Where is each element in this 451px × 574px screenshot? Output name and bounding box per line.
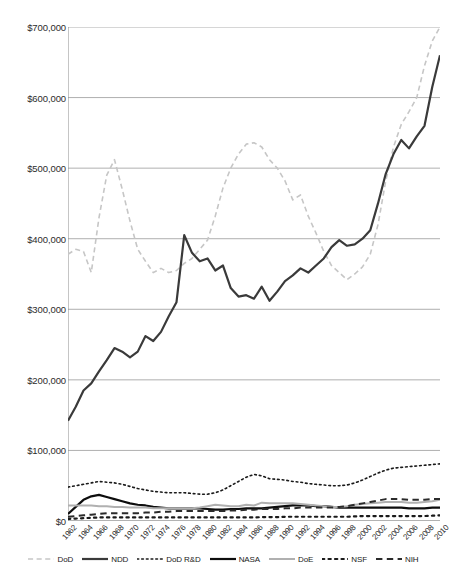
- legend-item-dod[interactable]: DoD: [28, 555, 73, 564]
- legend-label: DoE: [298, 555, 313, 564]
- x-axis-tick-label: 1968: [107, 523, 125, 542]
- legend-label: NIH: [405, 555, 418, 564]
- legend-label: NSF: [351, 555, 367, 564]
- legend-label: DoD R&D: [166, 555, 200, 564]
- x-axis-tick-label: 1970: [122, 523, 140, 542]
- x-axis-tick-label: 2002: [370, 523, 388, 542]
- x-axis-tick-label: 1984: [231, 523, 249, 542]
- y-axis-tick-label: $300,000: [4, 304, 66, 315]
- x-axis-tick-label: 1986: [246, 523, 264, 542]
- x-axis-tick-label: 1972: [138, 523, 156, 542]
- legend-item-doe[interactable]: DoE: [269, 555, 313, 564]
- series-group: [68, 27, 440, 519]
- x-axis-tick-label: 1974: [153, 523, 171, 542]
- legend-swatch-ndd: [82, 555, 108, 563]
- legend-swatch-dod-r-d: [137, 555, 163, 563]
- x-axis-tick-label: 2004: [386, 523, 404, 542]
- legend-swatch-nsf: [322, 555, 348, 563]
- x-axis-tick-label: 1964: [76, 523, 94, 542]
- x-axis-tick-label: 1994: [308, 523, 326, 542]
- y-axis-labels: $0$100,000$200,000$300,000$400,000$500,0…: [0, 27, 66, 521]
- x-axis-tick-label: 1976: [169, 523, 187, 542]
- x-axis-tick-label: 1996: [324, 523, 342, 542]
- series-line-dod-r-d: [68, 464, 440, 494]
- gridlines: [68, 27, 440, 521]
- x-axis-tick-label: 2006: [401, 523, 419, 542]
- chart-legend: DoDNDDDoD R&DNASADoENSFNIH: [0, 551, 447, 567]
- legend-swatch-dod: [28, 555, 54, 563]
- x-axis-tick-label: 1978: [184, 523, 202, 542]
- legend-swatch-doe: [269, 555, 295, 563]
- x-axis-tick-label: 1982: [215, 523, 233, 542]
- y-axis-tick-label: $100,000: [4, 445, 66, 456]
- x-axis-tick-label: 2000: [355, 523, 373, 542]
- plot-svg: [68, 27, 440, 521]
- series-line-ndd: [68, 55, 440, 421]
- y-axis-tick-label: $500,000: [4, 163, 66, 174]
- legend-item-nih[interactable]: NIH: [376, 555, 418, 564]
- legend-label: DoD: [57, 555, 73, 564]
- y-axis-tick-label: $0: [4, 516, 66, 527]
- y-axis-tick-label: $600,000: [4, 92, 66, 103]
- legend-swatch-nih: [376, 555, 402, 563]
- plot-area: [68, 27, 440, 521]
- y-axis-tick-label: $200,000: [4, 374, 66, 385]
- x-axis-tick-label: 1992: [293, 523, 311, 542]
- series-line-nsf: [68, 515, 440, 519]
- legend-item-nsf[interactable]: NSF: [322, 555, 367, 564]
- x-axis-tick-label: 2008: [417, 523, 435, 542]
- x-axis-tick-label: 1988: [262, 523, 280, 542]
- x-axis-tick-label: 1998: [339, 523, 357, 542]
- x-axis-tick-label: 1966: [91, 523, 109, 542]
- series-line-dod: [68, 27, 440, 280]
- y-axis-tick-label: $700,000: [4, 22, 66, 33]
- x-axis-labels: 1962196419661968197019721974197619781980…: [68, 521, 440, 551]
- legend-item-ndd[interactable]: NDD: [82, 555, 128, 564]
- legend-item-dod-r-d[interactable]: DoD R&D: [137, 555, 200, 564]
- x-axis-tick-label: 2010: [432, 523, 450, 542]
- legend-item-nasa[interactable]: NASA: [210, 555, 260, 564]
- x-axis-tick-label: 1980: [200, 523, 218, 542]
- legend-label: NASA: [239, 555, 260, 564]
- legend-swatch-nasa: [210, 555, 236, 563]
- x-axis-tick-label: 1990: [277, 523, 295, 542]
- legend-label: NDD: [111, 555, 128, 564]
- y-axis-tick-label: $400,000: [4, 233, 66, 244]
